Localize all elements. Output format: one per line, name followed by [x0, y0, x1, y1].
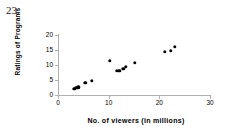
scatter-chart-figure: 23. Ratings of Programs No. of viewers (…	[0, 0, 231, 137]
y-tick-mark	[55, 50, 58, 51]
y-tick-label: 15	[38, 46, 53, 54]
y-tick-label: 0	[38, 91, 53, 99]
x-tick-label-text: 10	[101, 99, 117, 106]
y-tick-label-text: 0	[39, 91, 53, 98]
plot-area	[58, 35, 210, 95]
y-tick-label-text: 10	[39, 61, 53, 68]
x-tick-label-text: 30	[202, 99, 218, 106]
y-tick-label-text: 20	[39, 31, 53, 38]
x-axis-line	[58, 95, 211, 96]
x-tick-label: 20	[151, 99, 167, 108]
y-tick-label-text: 15	[39, 46, 53, 53]
x-tick-label: 30	[202, 99, 218, 108]
x-tick-label: 0	[50, 99, 66, 108]
y-tick-label-text: 5	[39, 76, 53, 83]
y-tick-label: 10	[38, 61, 53, 69]
y-tick-mark	[55, 80, 58, 81]
y-tick-label: 20	[38, 31, 53, 39]
y-axis-title: Ratings of Programs	[14, 6, 21, 78]
x-tick-label: 10	[101, 99, 117, 108]
y-tick-label: 5	[38, 76, 53, 84]
y-tick-mark	[55, 35, 58, 36]
x-tick-label-text: 0	[50, 99, 66, 106]
x-tick-label-text: 20	[151, 99, 167, 106]
y-tick-mark	[55, 65, 58, 66]
x-axis-title: No. of viewers (in millions)	[46, 117, 226, 124]
